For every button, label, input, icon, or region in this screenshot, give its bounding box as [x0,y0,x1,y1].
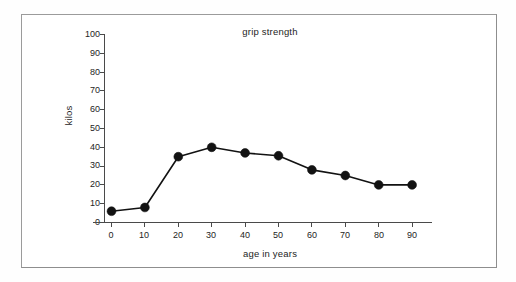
data-point-age-30 [207,143,216,152]
data-point-age-40 [241,149,250,158]
data-point-age-80 [374,181,383,190]
data-point-age-90 [408,181,417,190]
data-point-age-20 [174,152,183,161]
data-point-age-70 [341,171,350,180]
grip-strength-line-chart: grip strength kilos age in years 100 90 … [0,0,516,282]
y-axis-ticks [100,35,104,223]
data-point-age-50 [274,151,283,160]
chart-page: grip strength kilos age in years 100 90 … [0,0,516,282]
data-point-age-10 [141,203,150,212]
data-series-line [112,147,413,211]
data-point-age-0 [107,207,116,216]
plot-svg [0,0,516,282]
data-point-age-60 [308,165,317,174]
